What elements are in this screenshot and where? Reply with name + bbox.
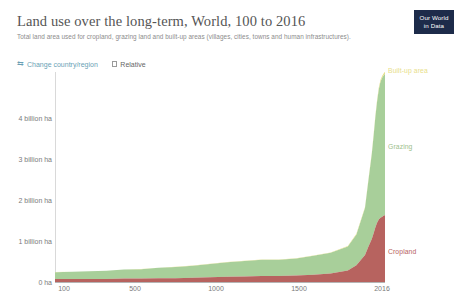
y-tick-2: 2 billion ha [19,197,52,204]
relative-toggle[interactable]: Relative [112,61,146,68]
chart-page: Land use over the long-term, World, 100 … [0,0,462,298]
area-series-built-up[interactable] [55,72,385,272]
x-axis-labels: 100 500 1000 1500 2016 [0,285,462,298]
x-tick-1000: 1000 [208,285,224,292]
stacked-area-chart[interactable] [55,72,385,282]
chart-subtitle: Total land area used for cropland, grazi… [17,33,351,40]
area-series-grazing[interactable] [55,74,385,279]
checkbox-icon[interactable] [112,61,118,67]
plot-area [55,72,385,282]
our-world-in-data-logo[interactable]: Our World in Data [414,10,454,34]
chart-header: Land use over the long-term, World, 100 … [0,0,462,52]
y-tick-3: 3 billion ha [19,156,52,163]
x-tick-100: 100 [58,285,70,292]
x-tick-1500: 1500 [291,285,307,292]
series-label-built-up: Built-up area [388,67,428,74]
y-tick-4: 4 billion ha [19,115,52,122]
x-axis-line [55,282,385,283]
y-tick-1: 1 billion ha [19,238,52,245]
relative-label: Relative [120,61,145,68]
series-label-cropland: Cropland [388,248,416,255]
x-tick-2016: 2016 [374,285,390,292]
series-label-grazing: Grazing [388,143,413,150]
y-axis-labels: 4 billion ha 3 billion ha 2 billion ha 1… [0,0,52,298]
x-tick-500: 500 [129,285,141,292]
page-title: Land use over the long-term, World, 100 … [17,13,305,30]
logo-line-1: Our World [414,14,454,22]
logo-line-2: in Data [414,22,454,30]
